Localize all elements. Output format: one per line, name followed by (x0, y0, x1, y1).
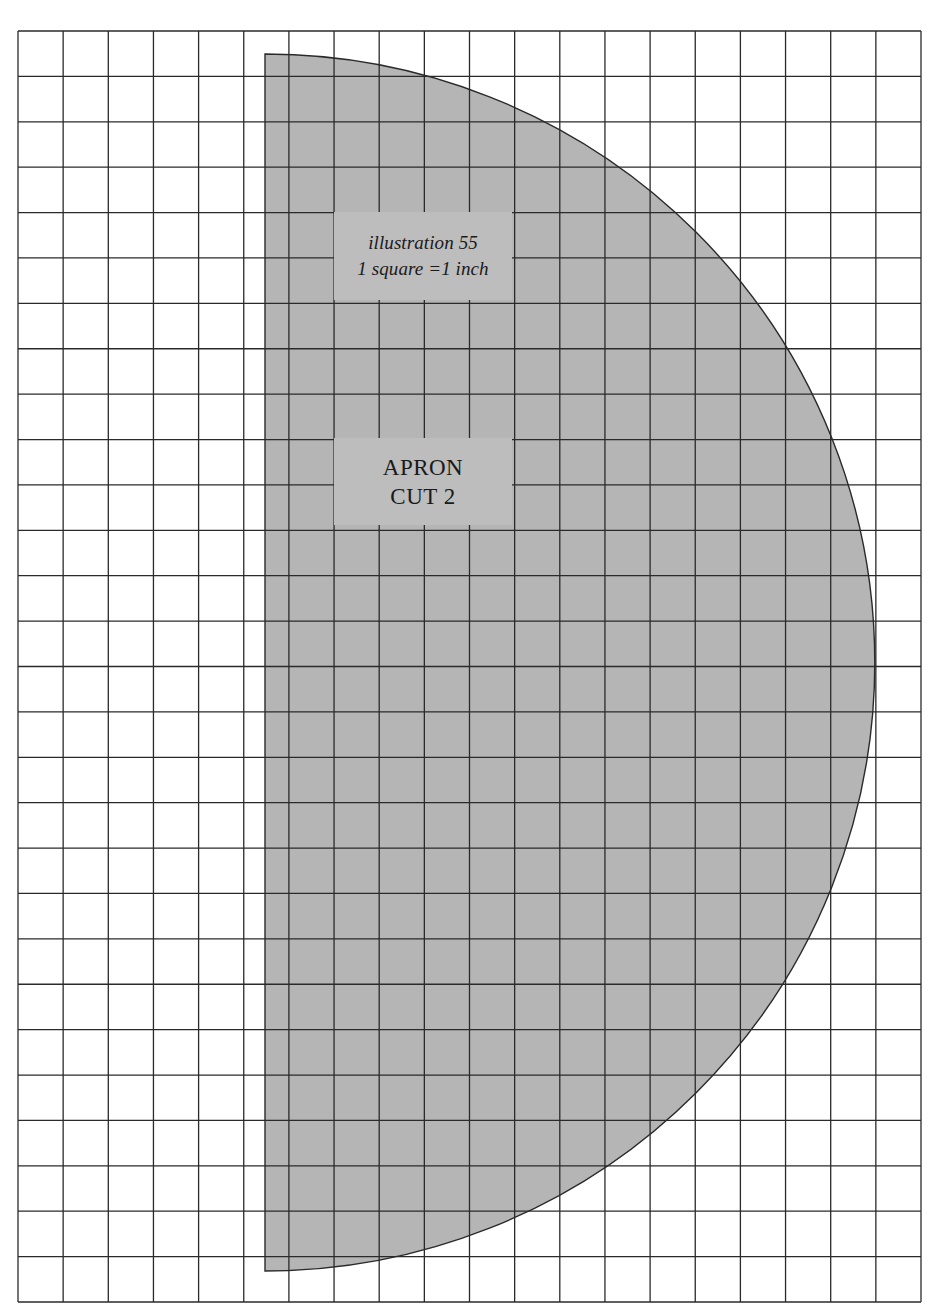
illustration-caption: illustration 55 1 square =1 inch (334, 212, 512, 300)
cut-instruction: CUT 2 (390, 482, 455, 511)
illustration-number: illustration 55 (368, 230, 478, 256)
piece-label: APRON CUT 2 (334, 438, 512, 525)
piece-name: APRON (383, 453, 463, 482)
apron-pattern-diagram (0, 0, 928, 1315)
scale-note: 1 square =1 inch (357, 256, 488, 282)
